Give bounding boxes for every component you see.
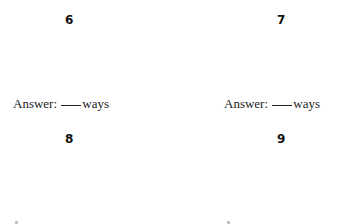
answer-line: Answer: ways	[13, 96, 109, 112]
answer-line: Answer: ways	[224, 96, 320, 112]
answer-label: Answer:	[224, 96, 268, 111]
problem-number: 7	[277, 13, 285, 27]
answer-blank[interactable]	[61, 105, 81, 106]
answer-blank[interactable]	[272, 105, 292, 106]
problem-number: 9	[277, 132, 285, 146]
answer-label: Answer:	[13, 96, 57, 111]
answer-unit: ways	[82, 96, 109, 111]
problem-number: 8	[65, 132, 73, 146]
answer-unit: ways	[293, 96, 320, 111]
problem-number: 6	[65, 13, 73, 27]
answer-line-fragment	[227, 221, 230, 224]
answer-line-fragment	[15, 221, 18, 224]
